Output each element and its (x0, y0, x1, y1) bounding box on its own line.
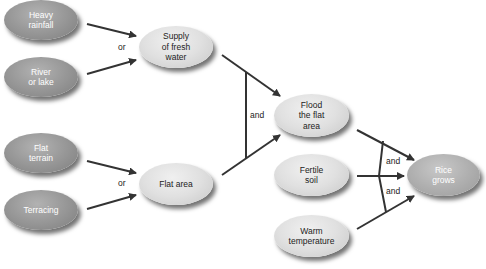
node-flood-flat-area: Flood the flat area (274, 94, 349, 137)
node-label: Heavy rainfall (28, 10, 53, 31)
connector-and-flood: and (250, 110, 264, 120)
connector-and-rice-lower: and (386, 186, 400, 196)
node-fertile-soil: Fertile soil (274, 154, 349, 196)
node-label: Fertile soil (300, 165, 324, 186)
node-label: Flat terrain (29, 143, 53, 164)
node-river-or-lake: River or lake (4, 57, 78, 97)
arrow-flat-to-flood (222, 135, 280, 175)
node-terracing: Terracing (4, 190, 78, 230)
diagram-canvas: Heavy rainfall River or lake Flat terrai… (0, 0, 486, 269)
node-label: Warm temperature (289, 226, 335, 247)
node-supply-fresh-water: Supply of fresh water (139, 26, 213, 68)
node-label: River or lake (28, 67, 54, 88)
arrow-water-to-flood (222, 55, 280, 96)
node-heavy-rainfall: Heavy rainfall (4, 0, 78, 40)
connector-and-rice-upper: and (386, 156, 400, 166)
node-label: Rice grows (432, 165, 455, 186)
node-label: Flood the flat area (299, 100, 325, 132)
node-flat-area: Flat area (139, 163, 213, 205)
arrow-temperature-to-rice (357, 196, 414, 229)
node-warm-temperature: Warm temperature (274, 215, 349, 257)
node-label: Flat area (159, 179, 193, 190)
connector-or-water: or (118, 42, 126, 52)
arrow-terrain-to-flat (87, 161, 136, 173)
arrows-layer (0, 0, 486, 269)
arrow-terracing-to-flat (87, 195, 136, 209)
node-label: Terracing (24, 205, 59, 216)
arrow-river-to-water (87, 60, 136, 74)
arrow-rainfall-to-water (87, 24, 136, 36)
node-flat-terrain: Flat terrain (4, 133, 78, 173)
node-label: Supply of fresh water (162, 31, 190, 63)
connector-or-flat: or (118, 178, 126, 188)
node-rice-grows: Rice grows (407, 154, 480, 196)
